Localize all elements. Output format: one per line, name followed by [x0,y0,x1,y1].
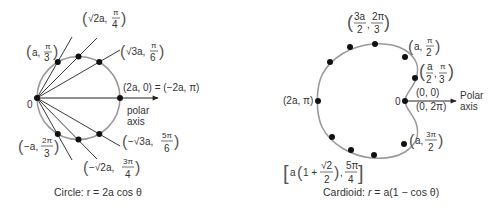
svg-text:,: , [367,19,370,30]
svg-text:4: 4 [348,174,354,185]
circle-caption: Circle: r = 2a cos θ [54,186,142,198]
svg-text:5π: 5π [162,131,172,140]
label-a-pi2: ( a, π 2 ) [408,36,440,58]
svg-text:a: a [290,167,296,178]
svg-text:√2: √2 [321,160,332,171]
svg-text:3π: 3π [426,130,436,139]
svg-text:): ) [53,43,58,60]
svg-text:π: π [427,36,433,45]
polar-diagram: 0 polar axis ( a, π 3 ) ( √2a, π 4 ) ( √… [0,0,496,211]
origin-label: 0 [395,96,401,107]
label-2a-0: (2a, 0) = (−2a, π) [123,82,199,93]
label-neg-sqrt2a-3pi4: ( −√2a, 3π 4 ) [83,157,140,180]
label-sqrt3a-pi6: ( √3a, π 6 ) [120,41,164,63]
svg-text:3π: 3π [123,157,133,166]
svg-text:): ) [121,10,126,27]
svg-text:]: ] [358,162,364,184]
svg-text:2: 2 [426,74,432,85]
axis-label: axis [460,101,478,112]
cardioid-points [315,41,418,158]
svg-text:π: π [440,62,446,71]
svg-text:): ) [135,159,140,176]
origin-label: 0 [27,99,33,110]
svg-text:): ) [384,12,390,32]
svg-text:1 +: 1 + [303,167,317,178]
svg-text:(: ( [347,12,353,32]
label-0-0: (0, 0) [416,87,439,98]
svg-text:a,: a, [414,41,422,52]
svg-text:): ) [435,38,440,55]
svg-text:−a,: −a, [24,141,38,152]
svg-text:4: 4 [112,19,118,30]
cardioid-figure: 0 Polar axis (0, 0) (0, 2π) (2a, π) ( 3a… [283,11,484,198]
svg-text:3: 3 [44,148,50,159]
svg-text:2: 2 [324,174,330,185]
axis-label: axis [127,116,145,127]
label-sqrt2a-pi4: ( √2a, π 4 ) [82,8,126,30]
svg-text:√3a,: √3a, [126,46,145,57]
svg-text:−√3a,: −√3a, [128,136,153,147]
svg-text:2π: 2π [42,136,52,145]
svg-text:a,: a, [32,47,40,58]
label-a-1-sqrt2-2-5pi4: [ a ( 1 + √2 2 ) , 5π 4 ] [283,160,364,185]
svg-text:6: 6 [150,52,156,63]
svg-text:3: 3 [439,74,445,85]
svg-text:(: ( [419,61,425,81]
svg-text:2: 2 [357,24,363,35]
svg-text:3: 3 [374,24,380,35]
svg-text:,: , [434,68,437,79]
svg-text:a: a [427,61,433,72]
svg-text:5π: 5π [346,160,359,171]
svg-text:3a: 3a [354,11,366,22]
label-2a-pi: (2a, π) [283,95,313,106]
svg-text:π: π [45,42,51,51]
label-3a2-2pi3: ( 3a 2 , 2π 3 ) [347,11,390,35]
svg-text:−√2a,: −√2a, [89,162,114,173]
svg-text:6: 6 [164,143,170,154]
svg-text:): ) [159,43,164,60]
label-a-pi3: ( a, π 3 ) [26,42,58,63]
svg-text:[: [ [283,162,289,184]
svg-text:3: 3 [44,52,50,63]
svg-text:4: 4 [125,169,131,180]
svg-text:2: 2 [428,142,434,153]
svg-text:2: 2 [426,47,432,58]
svg-text:π: π [151,41,157,50]
svg-text:): ) [438,132,443,149]
label-a-3pi2: ( a, 3π 2 ) [409,130,443,153]
svg-text:): ) [448,61,454,81]
svg-text:π: π [113,8,119,17]
svg-text:a,: a, [415,135,423,146]
svg-text:2π: 2π [372,11,385,22]
cardioid-caption: Cardioid: r = a(1 − cos θ) [323,186,439,198]
polar-label: polar [127,105,150,116]
svg-text:): ) [174,133,179,150]
label-neg-sqrt3a-5pi6: ( −√3a, 5π 6 ) [122,131,179,154]
svg-text:): ) [334,164,339,181]
svg-text:,: , [340,167,343,178]
svg-text:): ) [54,138,59,155]
label-neg-a-2pi3: ( −a, 2π 3 ) [18,136,59,159]
svg-text:√2a,: √2a, [88,13,107,24]
label-0-2pi: (0, 2π) [416,101,446,112]
circle-figure: 0 polar axis ( a, π 3 ) ( √2a, π 4 ) ( √… [18,8,199,198]
polar-label: Polar [460,90,484,101]
label-a2-pi3: ( a 2 , π 3 ) [419,61,454,85]
